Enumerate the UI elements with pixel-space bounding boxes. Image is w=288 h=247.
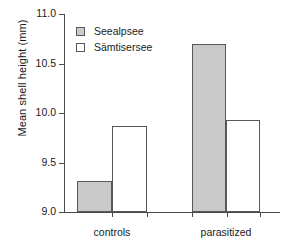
bar-parasitized-saemtisersee xyxy=(226,120,260,212)
y-tick-label-11-0: 11.0 xyxy=(36,7,56,19)
legend-swatch-white-icon xyxy=(76,43,85,52)
x-tick-2 xyxy=(147,212,148,217)
bar-controls-seealpsee xyxy=(77,181,112,212)
y-tick-9-5: 9.5 xyxy=(59,163,64,164)
y-tick-label-9-0: 9.0 xyxy=(41,205,56,217)
plot-area: 11.0 10.5 10.0 9.5 9.0 controls parasiti… xyxy=(64,14,280,212)
x-tick-5 xyxy=(260,212,261,217)
y-tick-10-5: 10.5 xyxy=(59,64,64,65)
y-tick-label-9-5: 9.5 xyxy=(41,156,56,168)
x-tick-label-parasitized: parasitized xyxy=(186,226,266,238)
y-tick-11-0: 11.0 xyxy=(59,14,64,15)
y-axis-line xyxy=(64,14,65,213)
y-tick-label-10-5: 10.5 xyxy=(36,57,56,69)
legend: Seealpsee Sämtisersee xyxy=(76,24,152,56)
x-tick-4 xyxy=(227,212,228,217)
bar-parasitized-seealpsee xyxy=(192,44,226,212)
x-axis-line xyxy=(64,212,280,213)
legend-swatch-gray-icon xyxy=(76,27,85,36)
x-tick-label-controls: controls xyxy=(72,226,152,238)
legend-label-saemtisersee: Sämtisersee xyxy=(94,41,152,53)
x-tick-1 xyxy=(112,212,113,217)
y-axis-title: Mean shell height (mm) xyxy=(16,0,28,158)
legend-item-seealpsee: Seealpsee xyxy=(76,24,152,38)
x-tick-3 xyxy=(192,212,193,217)
y-tick-10-0: 10.0 xyxy=(59,113,64,114)
bar-chart: Mean shell height (mm) 11.0 10.5 10.0 9.… xyxy=(0,0,288,247)
legend-item-saemtisersee: Sämtisersee xyxy=(76,40,152,54)
legend-label-seealpsee: Seealpsee xyxy=(94,25,144,37)
y-tick-label-10-0: 10.0 xyxy=(36,106,56,118)
bar-controls-saemtisersee xyxy=(112,126,147,212)
y-tick-9-0: 9.0 xyxy=(59,212,64,213)
